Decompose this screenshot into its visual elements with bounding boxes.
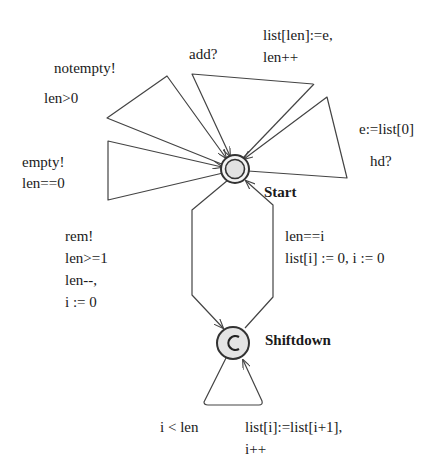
label-hd-update: e:=list[0] bbox=[359, 119, 414, 140]
edge-notempty bbox=[107, 76, 226, 165]
label-empty-sync: empty! bbox=[22, 152, 65, 173]
label-notempty-guard: len>0 bbox=[44, 88, 78, 109]
edge-rem bbox=[192, 180, 228, 328]
label-rem-update-2: i := 0 bbox=[65, 292, 97, 313]
label-back-guard: len==i bbox=[285, 226, 324, 247]
label-add-sync: add? bbox=[189, 44, 217, 65]
edge-add-return bbox=[243, 84, 314, 158]
label-shiftdown-name: Shiftdown bbox=[265, 330, 331, 351]
location-shiftdown[interactable] bbox=[217, 327, 249, 359]
label-empty-guard: len==0 bbox=[22, 173, 65, 194]
edge-add bbox=[192, 74, 313, 156]
label-notempty-sync: notempty! bbox=[54, 58, 116, 79]
label-shift-guard: i < len bbox=[160, 417, 198, 438]
edge-empty bbox=[108, 141, 223, 200]
edge-hd bbox=[244, 97, 347, 178]
label-shift-update-1: list[i]:=list[i+1], bbox=[245, 417, 342, 438]
label-add-update-1: list[len]:=e, bbox=[263, 25, 333, 46]
edge-shift bbox=[204, 358, 262, 405]
location-start[interactable] bbox=[221, 155, 249, 183]
label-shift-update-2: i++ bbox=[245, 439, 266, 460]
label-add-update-2: len++ bbox=[263, 47, 298, 68]
label-start-name: Start bbox=[264, 182, 297, 203]
label-back-update: list[i] := 0, i := 0 bbox=[285, 248, 384, 269]
automaton-diagram: notempty! len>0 empty! len==0 add? list[… bbox=[0, 0, 446, 471]
label-hd-sync: hd? bbox=[370, 151, 392, 172]
label-rem-guard: len>=1 bbox=[65, 248, 108, 269]
label-rem-sync: rem! bbox=[65, 226, 93, 247]
label-rem-update-1: len--, bbox=[65, 270, 97, 291]
edge-back bbox=[245, 181, 273, 328]
